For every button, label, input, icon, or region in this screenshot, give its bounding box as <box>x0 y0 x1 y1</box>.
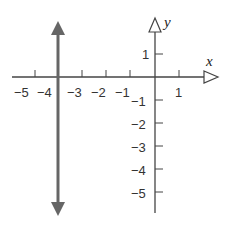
y-tick-label: −1 <box>131 94 146 109</box>
x-axis-arrow-icon <box>204 71 218 83</box>
x-tick-label: −5 <box>14 85 29 100</box>
x-tick-label: −4 <box>37 85 52 100</box>
y-tick-label: −5 <box>131 186 146 201</box>
x-tick-label: −3 <box>67 85 82 100</box>
arrow-up-icon <box>51 21 65 35</box>
x-tick-label: −2 <box>91 85 106 100</box>
y-axis-arrow-icon <box>149 18 161 32</box>
y-axis-label: y <box>162 14 171 30</box>
y-tick-label: −2 <box>131 117 146 132</box>
x-tick-label: 1 <box>175 85 182 100</box>
graphed-line-x-equals-neg4 <box>51 21 65 216</box>
arrow-down-icon <box>51 202 65 216</box>
coordinate-plane: x y −5 −4 −3 −2 −1 1 1 −1 −2 −3 −4 −5 <box>0 0 235 227</box>
x-axis-label: x <box>205 53 213 69</box>
y-tick-label: −3 <box>131 140 146 155</box>
y-tick-label: −4 <box>131 163 146 178</box>
x-axis: x <box>12 53 218 83</box>
x-tick-labels: −5 −4 −3 −2 −1 1 <box>14 85 182 100</box>
x-tick-label: −1 <box>115 85 130 100</box>
y-axis: y <box>149 14 171 213</box>
y-tick-label: 1 <box>142 47 149 62</box>
y-ticks <box>155 54 163 192</box>
y-tick-labels: 1 −1 −2 −3 −4 −5 <box>131 47 149 201</box>
